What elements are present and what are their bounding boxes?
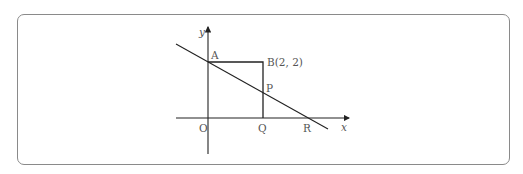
point-a-label: A bbox=[210, 49, 219, 61]
coordinate-diagram: y x O A B(2, 2) P Q R bbox=[0, 0, 523, 174]
x-axis-label: x bbox=[341, 121, 347, 133]
line-apr bbox=[176, 44, 328, 129]
origin-label: O bbox=[199, 122, 208, 134]
point-q-label: Q bbox=[258, 122, 267, 134]
square-abq bbox=[208, 62, 263, 118]
point-b-label: B(2, 2) bbox=[267, 56, 303, 68]
point-r-label: R bbox=[303, 122, 312, 134]
point-p-label: P bbox=[266, 82, 273, 94]
y-axis-label: y bbox=[198, 26, 206, 38]
